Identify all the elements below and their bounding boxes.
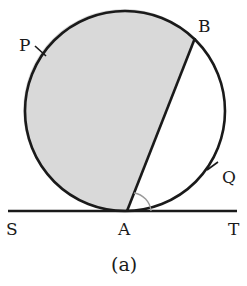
- label-Q: Q: [222, 167, 236, 187]
- label-T: T: [228, 219, 240, 239]
- circle-theorem-diagram: P B Q S A T (a): [0, 0, 247, 286]
- shaded-segment-APB: [23, 9, 195, 211]
- label-B: B: [198, 16, 211, 36]
- figure-caption: (a): [111, 253, 137, 275]
- label-A: A: [117, 219, 131, 239]
- label-S: S: [6, 219, 18, 239]
- label-P: P: [19, 35, 30, 55]
